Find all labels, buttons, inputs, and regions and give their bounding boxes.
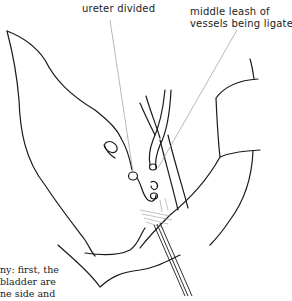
body-text-line-2: bladder are xyxy=(0,276,56,288)
right-wall-outer xyxy=(210,151,253,245)
divided-ureter-end xyxy=(129,172,138,180)
tissue-shading xyxy=(140,198,172,228)
label-middle-leash-line1: middle leash of xyxy=(190,6,270,17)
surgical-illustration: ureter divided middle leash of vessels b… xyxy=(0,0,292,301)
lower-fold xyxy=(85,228,145,255)
clip-left xyxy=(104,142,117,153)
left-organ-inner-edge xyxy=(7,31,95,256)
vessel-line-a xyxy=(160,140,178,210)
label-ureter-divided: ureter divided xyxy=(82,3,155,14)
vessel-leash-1 xyxy=(140,103,155,135)
label-middle-leash-line2: vessels being ligated xyxy=(190,18,292,29)
ligature-instrument xyxy=(154,223,192,296)
body-text-line-3: ne side and xyxy=(0,288,55,300)
vessel-line-b xyxy=(168,135,188,208)
lower-outer-edge xyxy=(58,245,180,287)
right-wall-curve xyxy=(216,79,258,157)
small-loop xyxy=(151,181,158,189)
ureter-leader xyxy=(110,20,133,172)
right-wall-upper xyxy=(250,59,254,79)
anatomy-drawing xyxy=(0,0,292,301)
body-text-line-1: ny: first, the xyxy=(0,264,59,276)
